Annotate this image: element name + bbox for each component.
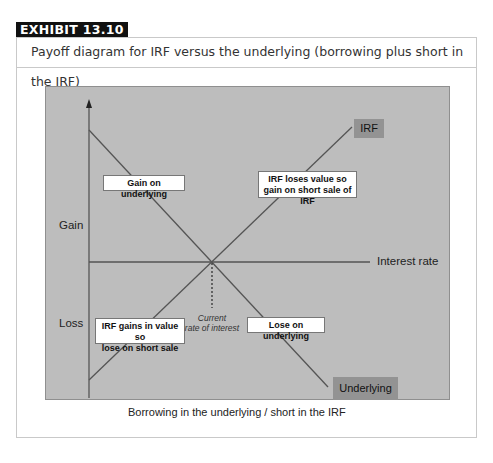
annotation-line2: rate of interest <box>182 323 242 333</box>
underlying-series-label: Underlying <box>333 377 398 400</box>
callout-irf-gains-value: IRF gains in value so lose on short sale <box>95 318 185 344</box>
callout-text-line1: IRF loses value so <box>262 174 353 185</box>
interest-rate-label: Interest rate <box>377 255 438 267</box>
payoff-diagram <box>0 0 493 463</box>
loss-label: Loss <box>59 317 83 329</box>
annotation-line1: Current <box>182 313 242 323</box>
callout-gain-on-underlying: Gain on underlying <box>103 175 185 191</box>
callout-text: Gain on underlying <box>121 178 167 199</box>
y-axis-arrow-icon <box>86 99 92 108</box>
callout-text: Lose on underlying <box>263 320 309 341</box>
callout-lose-on-underlying: Lose on underlying <box>247 317 325 333</box>
gain-label: Gain <box>59 219 83 231</box>
irf-series-label: IRF <box>354 119 384 138</box>
diagram-footer: Borrowing in the underlying / short in t… <box>128 406 346 418</box>
callout-text-line1: IRF gains in value so <box>99 321 181 343</box>
callout-irf-loses-value: IRF loses value so gain on short sale of… <box>258 171 357 198</box>
current-rate-annotation: Current rate of interest <box>182 313 242 333</box>
callout-text-line2: gain on short sale of IRF <box>262 185 353 207</box>
callout-text-line2: lose on short sale <box>99 343 181 354</box>
